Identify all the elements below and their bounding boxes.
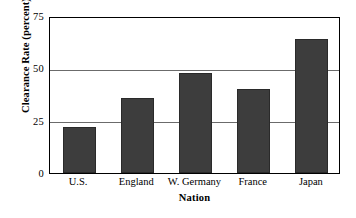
plot-area [50,18,339,173]
y-tick-label-0: 0 [2,169,44,179]
x-tick-label-u-s: U.S. [49,176,107,188]
plot-frame [49,17,340,174]
bar-france [237,89,270,173]
bar-u-s [63,127,96,173]
x-axis-title: Nation [49,192,340,203]
x-tick-label-w-germany: W. Germany [165,176,223,188]
bar-w-germany [179,73,212,173]
bar-japan [295,39,328,173]
bar-chart-figure: 0255075 Clearance Rate (percent) U.S.Eng… [0,0,356,218]
x-axis-tick-labels: U.S.EnglandW. GermanyFranceJapan [49,176,340,190]
x-tick-label-france: France [224,176,282,188]
x-tick-label-england: England [107,176,165,188]
bar-england [121,98,154,173]
y-axis-title: Clearance Rate (percent) [20,0,31,126]
x-tick-label-japan: Japan [282,176,340,188]
